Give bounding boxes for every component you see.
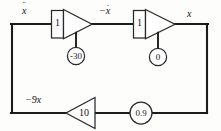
integrator2-triangle: [146, 10, 176, 39]
amplifier-gain-value: 10: [76, 108, 92, 118]
signal-label-x: x: [187, 9, 191, 19]
integrator1-ic-value: -30: [66, 52, 86, 61]
signal-label-minus-9x: −9x: [25, 95, 41, 105]
analog-computer-diagram: ¨ x − · x x −9x 1 -30 1 0 10 0.9: [0, 0, 221, 131]
potentiometer-value: 0.9: [130, 109, 152, 118]
single-dot-accent-icon: ·: [107, 1, 110, 10]
signal-label-minus-x-dot: − · x: [99, 6, 110, 16]
integrator1-triangle: [64, 10, 93, 39]
diagram-canvas: [0, 0, 221, 131]
integrator2-ic-value: 0: [148, 53, 168, 62]
integrator2-gain-value: 1: [134, 18, 146, 28]
minus-sign-xdot: −: [99, 5, 106, 16]
integrator1-gain-value: 1: [52, 18, 64, 28]
double-dot-accent-icon: ¨: [23, 0, 26, 9]
signal-label-x-double-dot: ¨ x: [22, 6, 26, 16]
